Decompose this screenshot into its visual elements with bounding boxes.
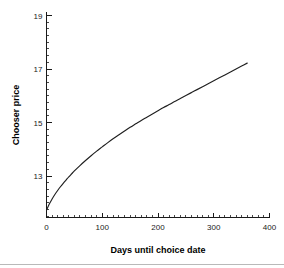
chooser-price-line-chart: 13151719 0100200300400 Days until choice…	[0, 0, 284, 268]
footer-divider	[0, 264, 284, 265]
x-tick-label: 0	[44, 223, 49, 232]
chooser-price-curve	[47, 63, 248, 210]
x-tick-label: 400	[263, 223, 277, 232]
y-tick-label: 13	[34, 172, 43, 181]
x-axis: 0100200300400	[44, 213, 276, 232]
y-axis-title: Chooser price	[11, 85, 21, 146]
y-tick-label: 15	[34, 119, 43, 128]
y-axis: 13151719	[34, 12, 52, 218]
y-axis-tick-labels: 13151719	[34, 12, 43, 182]
y-tick-label: 19	[34, 12, 43, 21]
y-tick-label: 17	[34, 65, 43, 74]
x-tick-label: 200	[151, 223, 165, 232]
chart-figure: 13151719 0100200300400 Days until choice…	[0, 0, 284, 268]
x-tick-label: 100	[96, 223, 110, 232]
x-tick-label: 300	[207, 223, 221, 232]
x-axis-title: Days until choice date	[110, 245, 205, 255]
data-series-group	[47, 63, 248, 210]
x-axis-tick-labels: 0100200300400	[44, 223, 276, 232]
